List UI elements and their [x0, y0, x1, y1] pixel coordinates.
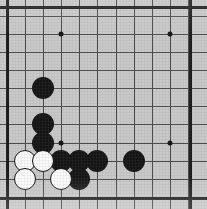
- grid-line-vertical-5: [97, 0, 98, 209]
- white-stone-3[interactable]: [14, 168, 36, 190]
- hoshi-lower-left: [59, 141, 64, 146]
- left-border: [6, 0, 9, 209]
- bottom-border: [0, 197, 207, 200]
- black-stone-1[interactable]: [32, 77, 54, 99]
- right-border: [189, 0, 192, 209]
- grid-line-horizontal-1: [0, 16, 207, 17]
- grid-line-vertical-8: [152, 0, 153, 209]
- white-stone-4[interactable]: [50, 168, 72, 190]
- grid-line-horizontal-4: [0, 70, 207, 71]
- grid-line-vertical-2: [43, 0, 44, 209]
- hoshi-upper-right: [168, 32, 173, 37]
- hoshi-upper-left: [59, 32, 64, 37]
- grid-line-horizontal-3: [0, 52, 207, 53]
- grid-line-vertical-6: [116, 0, 117, 209]
- white-stone-2[interactable]: [32, 150, 54, 172]
- grid-line-horizontal-2: [0, 34, 207, 35]
- goban-surface[interactable]: [0, 0, 207, 209]
- grid-line-horizontal-6: [0, 106, 207, 107]
- black-stone-7[interactable]: [123, 150, 145, 172]
- grid-line-vertical-7: [134, 0, 135, 209]
- go-board-diagram: [0, 0, 207, 209]
- hoshi-lower-right: [168, 141, 173, 146]
- top-border: [0, 6, 207, 9]
- black-stone-6[interactable]: [86, 150, 108, 172]
